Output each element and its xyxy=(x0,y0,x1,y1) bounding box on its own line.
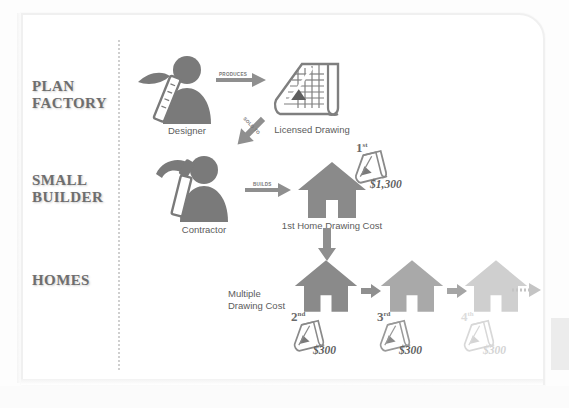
licensed-drawing-node: Licensed Drawing xyxy=(272,56,352,122)
home-cost-badge: 4th $300 xyxy=(459,316,497,354)
arrow-produces: PRODUCES xyxy=(216,72,268,88)
home-ordinal: 2nd xyxy=(291,309,305,325)
arrow-builds-label: BUILDS xyxy=(253,182,272,187)
designer-node: Designer xyxy=(136,52,232,124)
arrow-down-left-icon xyxy=(228,108,274,154)
arrow-right-icon xyxy=(361,284,381,298)
row-label-homes: HOMES xyxy=(32,272,90,289)
home-item: 2nd $300 xyxy=(293,258,359,314)
home-price: $300 xyxy=(399,344,422,356)
first-home-ordinal: 1st xyxy=(356,140,368,156)
home-ordinal: 4th xyxy=(461,309,474,325)
arrow-down-icon xyxy=(318,228,336,262)
multiple-label-line1: Multiple xyxy=(228,288,285,300)
licensed-drawing-caption: Licensed Drawing xyxy=(274,124,350,135)
first-home-cost-badge: 1st $1,300 xyxy=(350,146,390,186)
home-item: 3rd $300 xyxy=(379,258,445,314)
home-price: $300 xyxy=(483,344,506,356)
arrow-continues xyxy=(512,282,542,298)
row-label-line2: BUILDER xyxy=(32,189,103,206)
house-icon xyxy=(379,258,445,314)
designer-caption: Designer xyxy=(168,125,206,136)
blueprint-icon xyxy=(272,56,352,122)
row-label-line1: PLAN xyxy=(32,78,107,95)
multiple-label-line2: Drawing Cost xyxy=(228,300,285,312)
home-ordinal: 3rd xyxy=(377,309,391,325)
multiple-drawing-cost-label: Multiple Drawing Cost xyxy=(228,288,285,312)
contractor-icon xyxy=(152,152,246,222)
dotted-divider xyxy=(118,40,120,370)
row-label-line1: HOMES xyxy=(32,272,90,289)
arrow-right-dotted-icon xyxy=(512,282,542,298)
row-label-line1: SMALL xyxy=(32,172,103,189)
designer-icon xyxy=(136,52,232,124)
slide-bottom-edge-shadow xyxy=(21,379,543,385)
home-price: $300 xyxy=(313,344,336,356)
contractor-node: Contractor xyxy=(152,152,246,222)
slide-canvas: PLAN FACTORY SMALL BUILDER HOMES Designe… xyxy=(0,0,569,408)
arrow-builds: BUILDS xyxy=(245,182,293,198)
corner-accent-panel xyxy=(551,318,569,370)
row-label-plan-factory: PLAN FACTORY xyxy=(32,78,107,112)
home-cost-badge: 3rd $300 xyxy=(375,316,413,354)
house-icon xyxy=(293,258,359,314)
row-label-small-builder: SMALL BUILDER xyxy=(32,172,103,206)
arrow-sold-to: SOLD TO xyxy=(228,108,274,154)
arrow-produces-label: PRODUCES xyxy=(219,72,247,77)
arrow-home-chain-1 xyxy=(361,284,381,298)
home-cost-badge: 2nd $300 xyxy=(289,316,327,354)
contractor-caption: Contractor xyxy=(182,224,226,235)
bottom-strip xyxy=(0,386,569,408)
arrow-to-homes xyxy=(318,228,336,262)
first-home-price: $1,300 xyxy=(370,178,402,190)
row-label-line2: FACTORY xyxy=(32,95,107,112)
